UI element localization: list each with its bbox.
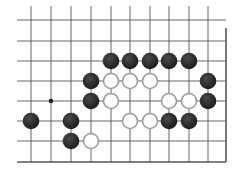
star-point-icon xyxy=(49,99,54,104)
black-stone[interactable] xyxy=(83,93,100,110)
black-stone[interactable] xyxy=(181,53,198,70)
white-stone[interactable] xyxy=(104,94,119,109)
white-stone[interactable] xyxy=(123,74,138,89)
white-stone[interactable] xyxy=(84,134,99,149)
white-stone[interactable] xyxy=(182,94,197,109)
black-stone[interactable] xyxy=(181,113,198,130)
star-points xyxy=(49,99,54,104)
black-stone[interactable] xyxy=(200,93,217,110)
board-grid xyxy=(17,6,226,162)
white-stone[interactable] xyxy=(143,114,158,129)
black-stone[interactable] xyxy=(122,53,139,70)
black-stone[interactable] xyxy=(200,73,217,90)
white-stone[interactable] xyxy=(162,94,177,109)
black-stone[interactable] xyxy=(161,53,178,70)
black-stone[interactable] xyxy=(23,113,40,130)
white-stone[interactable] xyxy=(143,74,158,89)
black-stone[interactable] xyxy=(103,53,120,70)
white-stone[interactable] xyxy=(104,74,119,89)
black-stone[interactable] xyxy=(83,73,100,90)
white-stone[interactable] xyxy=(123,114,138,129)
black-stone[interactable] xyxy=(63,113,80,130)
black-stone[interactable] xyxy=(161,113,178,130)
go-board xyxy=(0,0,239,177)
black-stone[interactable] xyxy=(63,133,80,150)
black-stone[interactable] xyxy=(142,53,159,70)
